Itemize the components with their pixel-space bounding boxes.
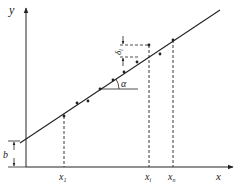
deviation-bracket	[120, 36, 149, 66]
tick-xi: xi	[144, 171, 151, 183]
y-axis-label: y	[8, 3, 15, 17]
intercept-label: b	[3, 149, 8, 160]
tick-xn: xn	[167, 171, 175, 183]
deviation-label: δi	[113, 49, 124, 55]
angle-label: α	[121, 78, 127, 89]
regression-line	[20, 10, 220, 143]
angle-marker	[100, 79, 138, 89]
tick-x1: x1	[58, 171, 66, 183]
intercept-bracket	[8, 141, 26, 167]
x-axis-label: x	[215, 170, 221, 182]
regression-diagram: y x b α δi x1 xi xn	[0, 0, 239, 184]
